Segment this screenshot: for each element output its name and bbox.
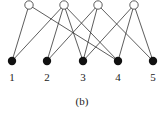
edge-b-2 (47, 5, 64, 61)
open-node-d (130, 1, 138, 9)
filled-node-5 (149, 57, 157, 65)
edge-d-5 (134, 5, 153, 61)
node-label-5: 5 (150, 71, 156, 83)
figure-caption: (b) (76, 95, 89, 108)
edge-b-3 (64, 5, 83, 61)
node-label-1: 1 (9, 71, 15, 83)
edges (12, 5, 153, 61)
node-labels: 12345 (9, 71, 156, 83)
open-node-b (60, 1, 68, 9)
node-label-3: 3 (80, 71, 86, 83)
open-node-c (94, 1, 102, 9)
filled-node-1 (8, 57, 16, 65)
node-label-2: 2 (44, 71, 50, 83)
nodes (8, 1, 157, 65)
node-label-4: 4 (115, 71, 121, 83)
edge-c-5 (98, 5, 153, 61)
open-node-a (25, 1, 33, 9)
filled-node-4 (114, 57, 122, 65)
filled-node-3 (79, 57, 87, 65)
filled-node-2 (43, 57, 51, 65)
bipartite-graph: 12345 (b) (0, 0, 163, 120)
edge-b-1 (12, 5, 64, 61)
edge-a-1 (12, 5, 29, 61)
